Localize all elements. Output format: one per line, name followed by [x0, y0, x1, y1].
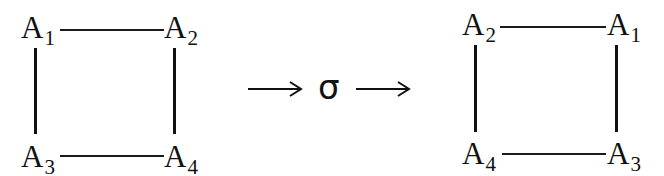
sigma-label: σ — [318, 70, 340, 104]
node-base: A — [164, 139, 186, 174]
node-subscript: 3 — [630, 152, 641, 176]
node-subscript: 2 — [187, 26, 198, 50]
node-base: A — [462, 7, 484, 42]
node-base: A — [21, 10, 43, 45]
right-node-top-right: A1 — [607, 9, 641, 40]
node-subscript: 4 — [485, 152, 496, 176]
right-edge-top — [500, 26, 606, 28]
permutation-diagram: A1 A2 A3 A4 σ A2 A1 — [0, 0, 664, 176]
left-edge-left — [34, 48, 37, 134]
right-edge-bottom — [502, 153, 606, 155]
node-subscript: 4 — [187, 155, 198, 176]
right-edge-right — [615, 45, 618, 132]
right-node-bottom-right: A3 — [607, 138, 641, 169]
left-node-bottom-left: A3 — [21, 141, 55, 172]
node-base: A — [164, 10, 186, 45]
right-node-bottom-left: A4 — [462, 138, 496, 169]
left-edge-bottom — [60, 155, 164, 157]
left-node-top-right: A2 — [164, 12, 198, 43]
node-base: A — [607, 136, 629, 171]
right-edge-left — [474, 45, 477, 132]
node-base: A — [462, 136, 484, 171]
node-subscript: 3 — [44, 155, 55, 176]
node-base: A — [21, 139, 43, 174]
node-subscript: 1 — [44, 26, 55, 50]
arrow-right-icon — [355, 80, 411, 98]
node-subscript: 1 — [630, 23, 641, 47]
right-node-top-left: A2 — [462, 9, 496, 40]
node-base: A — [607, 7, 629, 42]
left-node-bottom-right: A4 — [164, 141, 198, 172]
node-subscript: 2 — [485, 23, 496, 47]
left-node-top-left: A1 — [21, 12, 55, 43]
left-edge-right — [173, 48, 176, 134]
arrow-right-icon — [247, 80, 303, 98]
left-edge-top — [60, 29, 164, 31]
